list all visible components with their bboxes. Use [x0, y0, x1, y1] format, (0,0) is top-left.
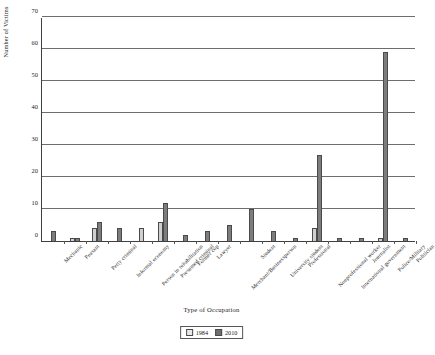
bar-group [130, 18, 152, 241]
bar-2010 [163, 203, 168, 241]
y-tick-10: 10 [32, 199, 38, 206]
bar-group [86, 18, 108, 241]
bar-group [152, 18, 174, 241]
bar-group [64, 18, 86, 241]
x-label: Petty criminal [110, 243, 138, 271]
bar-2010 [359, 238, 364, 241]
bar-group [42, 18, 64, 241]
x-label: Nonprofessional worker [337, 243, 382, 288]
y-tick-40: 40 [32, 103, 38, 110]
bar-group [108, 18, 130, 241]
bar-group [174, 18, 196, 241]
y-axis-title: Number of Victims [2, 0, 9, 92]
y-tick-70: 70 [32, 7, 38, 14]
y-tick-20: 20 [32, 167, 38, 174]
bar-group [350, 18, 372, 241]
bar-group [262, 18, 284, 241]
x-axis-title: Type of Occupation [0, 306, 423, 313]
x-label: Mechanic [63, 243, 84, 264]
bar-2010 [51, 231, 56, 241]
bar-2010 [271, 231, 276, 241]
bar-2010 [337, 238, 342, 241]
legend-swatch-2010 [215, 329, 222, 336]
bar-group [284, 18, 306, 241]
bar-2010 [293, 238, 298, 241]
bar-2010 [75, 238, 80, 241]
bar-2010 [227, 225, 232, 241]
x-label: Student [259, 243, 276, 260]
bar-2010 [249, 209, 254, 241]
x-label: Informal economy [135, 243, 170, 278]
y-tick-0: 0 [35, 231, 38, 238]
x-label: Merchant/Businessperson [250, 243, 298, 291]
bar-group [240, 18, 262, 241]
bar-series-container [42, 18, 415, 241]
bar-2010 [97, 222, 102, 241]
legend-label-1984: 1984 [196, 329, 208, 336]
x-axis-category-labels: MechanicPeasantPetty criminalInformal ec… [41, 243, 415, 315]
bar-group [306, 18, 328, 241]
gridline-70 [42, 16, 415, 17]
bar-group [372, 18, 394, 241]
bar-2010 [205, 231, 210, 241]
bar-2010 [403, 238, 408, 241]
plot-area: 010203040506070 [41, 18, 415, 242]
bar-group [328, 18, 350, 241]
x-tick [416, 241, 417, 244]
bar-1984 [139, 228, 144, 241]
bar-group [218, 18, 240, 241]
bar-2010 [117, 228, 122, 241]
y-tick-60: 60 [32, 39, 38, 46]
bar-2010 [383, 52, 388, 241]
bar-2010 [317, 155, 322, 241]
bar-2010 [183, 235, 188, 241]
bar-group [394, 18, 416, 241]
legend-entry-1984: 1984 [186, 329, 208, 336]
y-tick-30: 30 [32, 135, 38, 142]
legend-entry-2010: 2010 [215, 329, 237, 336]
x-label: Peasant [83, 243, 100, 260]
y-tick-50: 50 [32, 71, 38, 78]
legend-swatch-1984 [186, 329, 193, 336]
chart-legend: 1984 2010 [180, 326, 244, 339]
legend-label-2010: 2010 [225, 329, 237, 336]
bar-group [196, 18, 218, 241]
